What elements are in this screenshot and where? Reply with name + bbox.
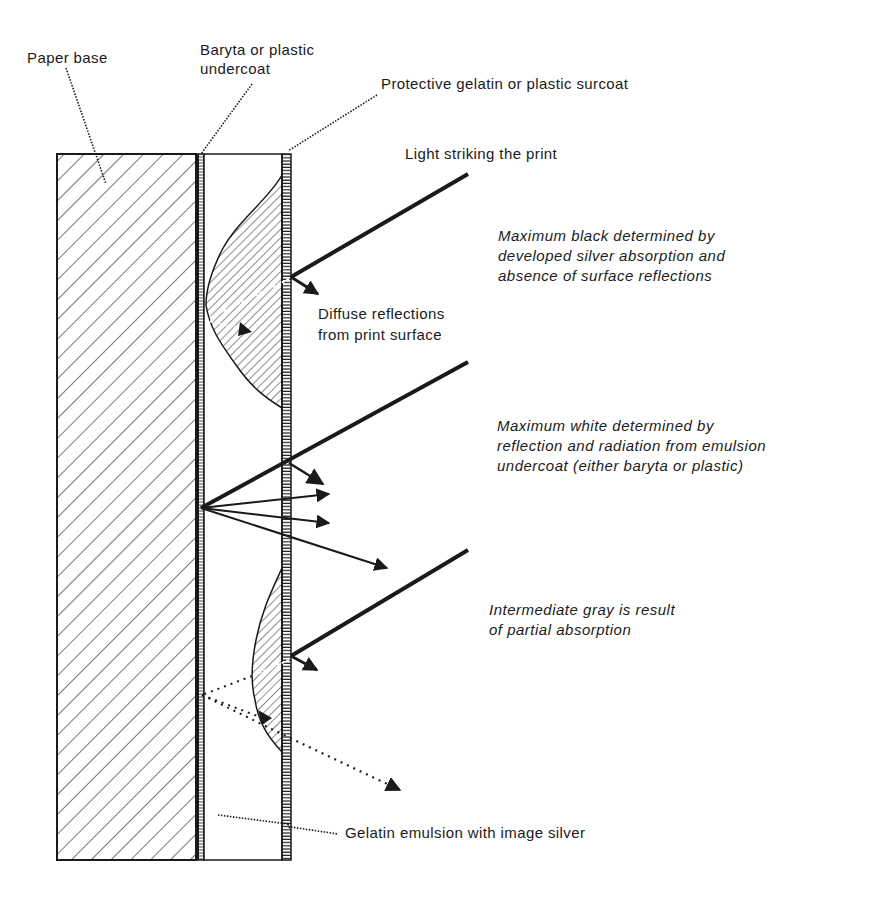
paper-base-layer xyxy=(57,154,196,860)
max-white-line3: undercoat (either baryta or plastic) xyxy=(497,456,766,476)
max-black-line3: absence of surface reflections xyxy=(498,266,725,286)
label-paper-base: Paper base xyxy=(27,48,108,67)
diffuse-line1: Diffuse reflections xyxy=(318,303,445,324)
label-baryta-line2: undercoat xyxy=(200,59,314,78)
label-light-striking: Light striking the print xyxy=(405,144,557,163)
label-intermediate-gray: Intermediate gray is result of partial a… xyxy=(489,600,675,640)
surcoat-leader xyxy=(288,95,377,151)
label-maximum-black: Maximum black determined by developed si… xyxy=(498,226,725,286)
label-surcoat: Protective gelatin or plastic surcoat xyxy=(381,74,628,93)
label-baryta-line1: Baryta or plastic xyxy=(200,40,314,59)
intermediate-line2: of partial absorption xyxy=(489,620,675,640)
surcoat-layer xyxy=(282,154,291,860)
baryta-leader xyxy=(201,84,252,154)
max-black-line1: Maximum black determined by xyxy=(498,226,725,246)
label-baryta-undercoat: Baryta or plastic undercoat xyxy=(200,40,314,78)
max-white-line2: reflection and radiation from emulsion xyxy=(497,436,766,456)
max-black-line2: developed silver absorption and xyxy=(498,246,725,266)
max-white-line1: Maximum white determined by xyxy=(497,416,766,436)
label-gelatin-emulsion: Gelatin emulsion with image silver xyxy=(345,823,585,842)
label-maximum-white: Maximum white determined by reflection a… xyxy=(497,416,766,476)
diffuse-line2: from print surface xyxy=(318,324,445,345)
label-diffuse-reflections: Diffuse reflections from print surface xyxy=(318,303,445,345)
intermediate-line1: Intermediate gray is result xyxy=(489,600,675,620)
